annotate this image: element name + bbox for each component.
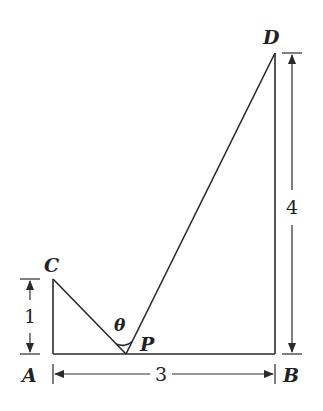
geometry-diagram: C A B D P θ 1 3 4 — [0, 0, 323, 411]
label-theta: θ — [114, 315, 126, 335]
label-D: D — [262, 26, 280, 48]
segment-PD — [126, 53, 275, 354]
label-P: P — [139, 333, 155, 355]
label-A: A — [20, 364, 37, 386]
dimension-label-BD: 4 — [286, 196, 298, 218]
dimension-label-AC: 1 — [24, 305, 36, 327]
figure — [53, 53, 275, 354]
label-B: B — [282, 364, 299, 386]
dimension-label-AB: 3 — [155, 363, 167, 385]
label-C: C — [44, 254, 59, 276]
